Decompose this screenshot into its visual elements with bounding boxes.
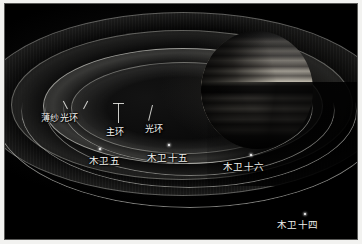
moon-marker-thebe-icon — [304, 213, 306, 215]
moon-marker-adrastea-icon — [168, 144, 170, 146]
label-moon-thebe: 木卫十四 — [277, 220, 319, 230]
gossamer-leader-icon — [67, 100, 87, 110]
label-moon-metis: 木卫十六 — [223, 162, 265, 172]
label-gossamer-ring: 薄纱光环 — [41, 114, 79, 123]
main-ring-leader-icon — [118, 103, 119, 123]
label-moon-adrastea: 木卫十五 — [147, 153, 189, 163]
diagram-canvas: 薄纱光环 主环 光环 木卫五 木卫十五 木卫十六 木卫十四 — [5, 4, 357, 239]
label-moon-amalthea: 木卫五 — [89, 156, 120, 166]
label-main-ring: 主环 — [106, 128, 125, 137]
main-ring-leader-cap-icon — [113, 103, 124, 104]
figure-frame: 薄纱光环 主环 光环 木卫五 木卫十五 木卫十六 木卫十四 — [0, 0, 362, 244]
label-halo-ring: 光环 — [145, 125, 164, 134]
moon-marker-amalthea-icon — [99, 148, 101, 150]
moon-marker-metis-icon — [250, 154, 252, 156]
